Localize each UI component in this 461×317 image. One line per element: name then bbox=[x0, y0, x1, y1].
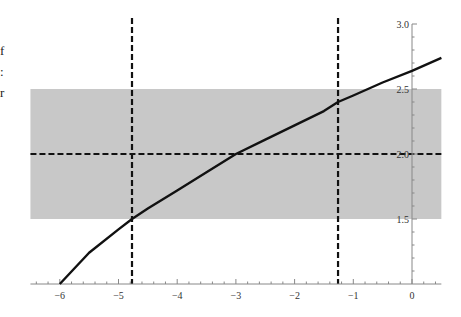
y-tick-label: 1.5 bbox=[397, 214, 410, 225]
line-chart: −6−5−4−3−2−101.52.02.53.0 bbox=[0, 0, 461, 317]
x-tick-label: −3 bbox=[231, 290, 242, 301]
x-tick-label: −5 bbox=[113, 290, 124, 301]
x-tick-label: 0 bbox=[410, 290, 415, 301]
y-tick-label: 2.0 bbox=[397, 149, 410, 160]
y-tick-label: 2.5 bbox=[397, 84, 410, 95]
x-tick-label: −2 bbox=[289, 290, 300, 301]
x-tick-label: −4 bbox=[172, 290, 183, 301]
y-tick-label: 3.0 bbox=[397, 19, 410, 30]
x-tick-label: −1 bbox=[348, 290, 359, 301]
x-tick-label: −6 bbox=[54, 290, 65, 301]
